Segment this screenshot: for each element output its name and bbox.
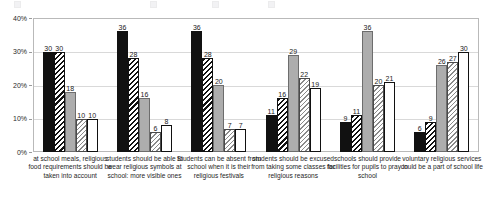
bar[interactable]: 29 (288, 55, 299, 152)
bar[interactable]: 8 (161, 125, 172, 152)
bar-value-label: 22 (300, 71, 308, 78)
bar-slot: 20 (213, 18, 224, 152)
bar-slot: 9 (340, 18, 351, 152)
bar-slot: 36 (191, 18, 202, 152)
x-axis-category-label: students should be excused from taking s… (251, 155, 335, 180)
bar[interactable]: 10 (87, 119, 98, 153)
bar[interactable]: 10 (76, 119, 87, 153)
bar[interactable]: 11 (266, 115, 277, 152)
legend-item (150, 0, 159, 8)
bar[interactable]: 28 (128, 58, 139, 152)
bar-value-label: 30 (55, 45, 63, 52)
x-axis-category-label: at school meals, religious food requirem… (28, 155, 112, 180)
bar-value-label: 30 (44, 45, 52, 52)
bar-value-label: 10 (88, 112, 96, 119)
bar-chart: 0%10%20%30%40%3030181010at school meals,… (0, 0, 488, 197)
bar-slot: 27 (447, 18, 458, 152)
bar-group-bars: 36281668 (107, 18, 181, 152)
y-axis-tick-mark (29, 18, 32, 19)
bar-slot: 7 (235, 18, 246, 152)
bar-slot: 28 (202, 18, 213, 152)
bar[interactable]: 16 (139, 98, 150, 152)
bar[interactable]: 36 (117, 31, 128, 152)
bar[interactable]: 16 (277, 98, 288, 152)
bar-slot: 6 (414, 18, 425, 152)
bar[interactable]: 9 (425, 122, 436, 152)
legend-swatch (150, 1, 157, 8)
bar[interactable]: 7 (224, 129, 235, 152)
bar-slot: 19 (310, 18, 321, 152)
bar[interactable]: 6 (150, 132, 161, 152)
bar[interactable]: 30 (54, 52, 65, 153)
bar[interactable]: 28 (202, 58, 213, 152)
bar-slot: 36 (117, 18, 128, 152)
bar[interactable]: 27 (447, 62, 458, 152)
bar-slot: 16 (139, 18, 150, 152)
y-axis-tick-label: 20% (0, 82, 27, 89)
bar-group: 911362021 (330, 18, 404, 152)
bar-value-label: 20 (215, 78, 223, 85)
bar-slot: 22 (299, 18, 310, 152)
bar-group-bars: 1116292219 (256, 18, 330, 152)
bar-value-label: 29 (289, 48, 297, 55)
bar-slot: 21 (384, 18, 395, 152)
y-axis-tick-label: 10% (0, 115, 27, 122)
x-axis-category-label: Students can be absent from school when … (177, 155, 261, 180)
bar-slot: 29 (288, 18, 299, 152)
bar-slot: 30 (43, 18, 54, 152)
legend-swatch (268, 1, 275, 8)
bar[interactable]: 18 (65, 92, 76, 152)
legend-item (268, 0, 277, 8)
bar[interactable]: 19 (310, 88, 321, 152)
bar-value-label: 36 (193, 24, 201, 31)
legend-swatch (14, 1, 21, 8)
bar-value-label: 7 (228, 122, 232, 129)
bar[interactable]: 21 (384, 82, 395, 152)
y-axis-tick-label: 40% (0, 15, 27, 22)
legend-item (14, 0, 23, 8)
chart-legend (0, 0, 488, 9)
bar-value-label: 9 (344, 115, 348, 122)
bar-slot: 18 (65, 18, 76, 152)
bar-value-label: 8 (165, 118, 169, 125)
y-axis-tick-mark (29, 85, 32, 86)
bar[interactable]: 36 (362, 31, 373, 152)
y-axis-tick-mark (29, 52, 32, 53)
legend-swatch (212, 1, 219, 8)
bar-group-bars: 3030181010 (33, 18, 107, 152)
bar-value-label: 21 (386, 75, 394, 82)
bar-slot: 7 (224, 18, 235, 152)
bar[interactable]: 22 (299, 78, 310, 152)
y-axis-tick-mark (29, 119, 32, 120)
bar[interactable]: 26 (436, 65, 447, 152)
bar[interactable]: 20 (213, 85, 224, 152)
bar[interactable]: 20 (373, 85, 384, 152)
bar-group: 69262730 (405, 18, 479, 152)
bar[interactable]: 30 (458, 52, 469, 153)
bar-value-label: 26 (438, 58, 446, 65)
bar-slot: 30 (54, 18, 65, 152)
bar[interactable]: 9 (340, 122, 351, 152)
bar-value-label: 18 (66, 85, 74, 92)
bar[interactable]: 30 (43, 52, 54, 153)
bar[interactable]: 6 (414, 132, 425, 152)
bar-slot: 9 (425, 18, 436, 152)
bar[interactable]: 36 (191, 31, 202, 152)
bar[interactable]: 7 (235, 129, 246, 152)
bar-value-label: 10 (77, 112, 85, 119)
bar-slot: 10 (76, 18, 87, 152)
bar-value-label: 28 (130, 51, 138, 58)
bar-slot: 11 (351, 18, 362, 152)
bar-value-label: 28 (204, 51, 212, 58)
y-axis-tick-label: 0% (0, 149, 27, 156)
bar-value-label: 16 (278, 91, 286, 98)
bar-value-label: 11 (353, 108, 360, 115)
bar-slot: 30 (458, 18, 469, 152)
bar[interactable]: 11 (351, 115, 362, 152)
bar-slot: 28 (128, 18, 139, 152)
bar-slot: 10 (87, 18, 98, 152)
bar-group: 36281668 (107, 18, 181, 152)
bar-group: 3030181010 (33, 18, 107, 152)
bar-group-bars: 69262730 (405, 18, 479, 152)
bar-slot: 8 (161, 18, 172, 152)
